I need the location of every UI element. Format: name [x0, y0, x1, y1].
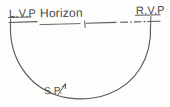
horizon-underline-word: [40, 24, 80, 25]
horizon-segment-left: [9, 22, 37, 23]
label-left-vanishing-point: L.V.P: [9, 7, 36, 20]
horizon-segment-mid: [86, 22, 116, 23]
vision-arc: [10, 24, 150, 99]
label-right-vanishing-point: R.V.P: [136, 4, 165, 17]
label-station-point: S.P.: [44, 85, 63, 97]
label-horizon: Horizon: [40, 6, 83, 21]
perspective-diagram: L.V.P Horizon R.V.P S.P.: [0, 0, 170, 107]
horizon-tick-icon: [85, 21, 86, 28]
